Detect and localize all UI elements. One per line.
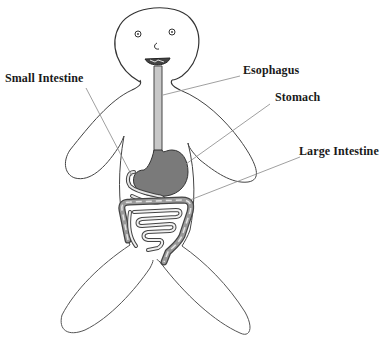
leader-large-intestine bbox=[190, 157, 300, 200]
mouth bbox=[145, 58, 170, 65]
leader-lines bbox=[86, 76, 300, 200]
leader-esophagus bbox=[163, 76, 240, 95]
nose bbox=[155, 43, 159, 49]
leader-small-intestine bbox=[86, 88, 132, 176]
right-arm bbox=[180, 90, 256, 182]
label-large-intestine: Large Intestine bbox=[299, 144, 379, 159]
leader-stomach bbox=[186, 104, 270, 164]
esophagus-organ bbox=[152, 66, 162, 162]
right-shoulder bbox=[171, 80, 180, 90]
label-small-intestine: Small Intestine bbox=[5, 71, 84, 86]
body-figure bbox=[0, 0, 388, 345]
label-stomach: Stomach bbox=[275, 90, 320, 105]
right-leg bbox=[157, 246, 250, 334]
left-arm bbox=[65, 90, 132, 179]
diagram-canvas: Small Intestine Esophagus Stomach Large … bbox=[0, 0, 388, 345]
label-esophagus: Esophagus bbox=[243, 63, 299, 78]
stomach-organ bbox=[133, 150, 188, 197]
left-leg bbox=[61, 245, 153, 333]
